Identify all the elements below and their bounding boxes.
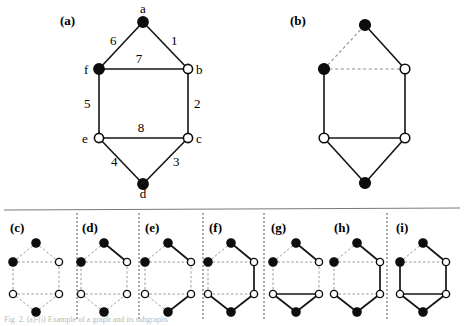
panel-b-node-b — [400, 64, 410, 74]
panel-c-label: (c) — [10, 220, 24, 235]
panel-i-node-c — [442, 290, 449, 297]
panel-e-node-b — [187, 258, 194, 265]
panel-a-edge-label-1: 1 — [171, 33, 178, 48]
panel-g-node-a — [292, 239, 300, 247]
panel-a-node-f — [94, 64, 104, 74]
panel-h: (h) — [330, 220, 384, 316]
panel-a-node-b — [183, 64, 192, 73]
panel-c-node-e — [9, 290, 16, 297]
panel-b-label: (b) — [290, 13, 306, 28]
panel-c-node-f — [9, 258, 17, 266]
panel-g: (g) — [269, 220, 323, 316]
panel-i: (i) — [396, 220, 450, 316]
panel-e-node-a — [164, 239, 172, 247]
panel-b-edge-d-e — [324, 138, 365, 183]
panel-d-label: (d) — [82, 220, 98, 235]
panel-a-edge-a-b — [143, 22, 188, 69]
panel-e: (e) — [141, 220, 195, 316]
panel-d-node-a — [100, 239, 108, 247]
panel-a-node-label-b: b — [196, 62, 203, 77]
panel-g-node-c — [315, 290, 322, 297]
panel-b-edge-a-b — [365, 25, 405, 69]
panel-h-node-a — [353, 239, 361, 247]
panel-f-node-e — [204, 290, 211, 297]
panel-f-node-c — [250, 290, 257, 297]
panel-f-node-a — [227, 239, 235, 247]
panel-e-node-f — [141, 258, 149, 266]
panel-b-node-c — [400, 133, 410, 143]
panel-a-edge-label-3: 3 — [173, 154, 180, 169]
panel-a-edge-label-5: 5 — [84, 96, 91, 111]
panel-i-label: (i) — [396, 220, 408, 235]
panel-b: (b) — [290, 13, 410, 188]
panel-b-edge-f-a — [324, 25, 365, 69]
panel-g-label: (g) — [271, 220, 286, 235]
panel-f-node-f — [204, 258, 212, 266]
panel-b-node-a — [360, 20, 371, 31]
panel-a-node-c — [183, 133, 192, 142]
panel-b-edge-c-d — [365, 138, 405, 183]
small-panel-group: (c)(d)(e)(f)(g)(h)(i) — [9, 220, 450, 316]
panel-h-node-f — [330, 258, 338, 266]
panel-e-node-c — [187, 290, 194, 297]
panel-b-node-f — [319, 64, 330, 75]
panel-i-node-f — [396, 258, 404, 266]
panel-e-node-e — [141, 290, 148, 297]
panel-b-node-d — [360, 178, 371, 189]
section-divider-rule — [4, 208, 460, 210]
panel-a-edge-label-4: 4 — [111, 154, 118, 169]
panel-a-edge-label-6: 6 — [110, 33, 117, 48]
panel-a-edge-d-e — [99, 138, 143, 184]
panel-f: (f) — [204, 220, 258, 316]
panel-a-edge-label-8: 8 — [138, 120, 145, 135]
panel-d-node-f — [77, 258, 85, 266]
panel-a-edge-c-d — [143, 138, 188, 184]
panel-b-node-e — [319, 133, 329, 143]
panel-a-node-a — [138, 17, 148, 27]
panel-a-node-label-d: d — [140, 186, 147, 201]
panel-d-node-e — [77, 290, 84, 297]
panel-a-node-label-f: f — [84, 62, 89, 77]
panel-e-label: (e) — [145, 220, 159, 235]
panel-c: (c) — [9, 220, 63, 316]
panel-c-node-b — [55, 258, 62, 265]
panel-d-node-c — [123, 290, 130, 297]
panel-i-node-b — [442, 258, 449, 265]
panel-a-node-label-a: a — [140, 1, 146, 16]
panel-h-node-b — [376, 258, 383, 265]
panel-a-node-label-e: e — [82, 131, 88, 146]
panel-c-node-c — [55, 290, 62, 297]
panel-a-label: (a) — [60, 13, 75, 28]
figure-caption: Fig. 2. (a)-(i) Example of a graph and i… — [4, 315, 444, 326]
panel-a-node-e — [94, 133, 103, 142]
panel-h-node-e — [330, 290, 337, 297]
panel-a-node-label-c: c — [196, 131, 202, 146]
panel-f-label: (f) — [209, 220, 222, 235]
panel-d-node-b — [123, 258, 130, 265]
panel-a-edge-label-7: 7 — [136, 51, 143, 66]
figure-canvas: (a) a b c d e f 1 2 3 4 5 6 7 8 (b) — [0, 0, 464, 326]
panel-a: (a) a b c d e f 1 2 3 4 5 6 7 8 — [60, 1, 203, 201]
panel-g-node-f — [269, 258, 277, 266]
panel-g-node-b — [315, 258, 322, 265]
panel-c-node-a — [32, 239, 40, 247]
panel-d: (d) — [77, 220, 131, 316]
panel-g-node-e — [269, 290, 276, 297]
figure-root: (a) a b c d e f 1 2 3 4 5 6 7 8 (b) — [0, 0, 464, 326]
panel-h-label: (h) — [334, 220, 350, 235]
panel-f-node-b — [250, 258, 257, 265]
panel-a-edge-label-2: 2 — [194, 96, 201, 111]
panel-i-node-a — [419, 239, 427, 247]
panel-i-node-e — [396, 290, 403, 297]
panel-h-node-c — [376, 290, 383, 297]
